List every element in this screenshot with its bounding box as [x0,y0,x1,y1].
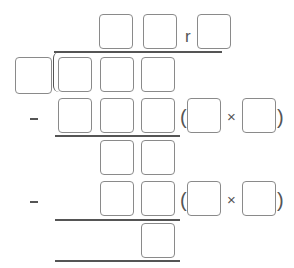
quotient-digit-1-box[interactable] [99,14,133,49]
minus-sign-1 [30,118,38,120]
subtraction-line-1 [55,135,180,137]
bring-down-digit-2-box[interactable] [141,140,175,175]
open-paren-1: ( [180,107,187,127]
final-remainder-box[interactable] [141,223,175,258]
dividend-digit-1-box[interactable] [58,57,92,92]
minus-sign-2 [30,201,38,203]
factor-1a-box[interactable] [187,98,221,133]
subtraction-line-2 [55,219,180,221]
subtraction-line-3 [55,260,180,262]
open-paren-2: ( [180,190,187,210]
remainder-label: r [185,28,191,45]
product-1-digit-1-box[interactable] [58,98,92,133]
factor-1b-box[interactable] [242,98,276,133]
quotient-digit-2-box[interactable] [143,14,177,49]
remainder-box[interactable] [197,14,231,49]
product-1-digit-3-box[interactable] [141,98,175,133]
times-sign-2: × [227,192,236,207]
factor-2b-box[interactable] [242,181,276,216]
product-1-digit-2-box[interactable] [100,98,134,133]
factor-2a-box[interactable] [187,181,221,216]
dividend-digit-3-box[interactable] [141,57,175,92]
close-paren-2: ) [277,190,284,210]
close-paren-1: ) [277,107,284,127]
dividend-digit-2-box[interactable] [100,57,134,92]
product-2-digit-2-box[interactable] [141,181,175,216]
divisor-box[interactable] [15,57,52,94]
division-bar [54,51,222,53]
times-sign-1: × [227,109,236,124]
bring-down-digit-1-box[interactable] [100,140,134,175]
product-2-digit-1-box[interactable] [100,181,134,216]
